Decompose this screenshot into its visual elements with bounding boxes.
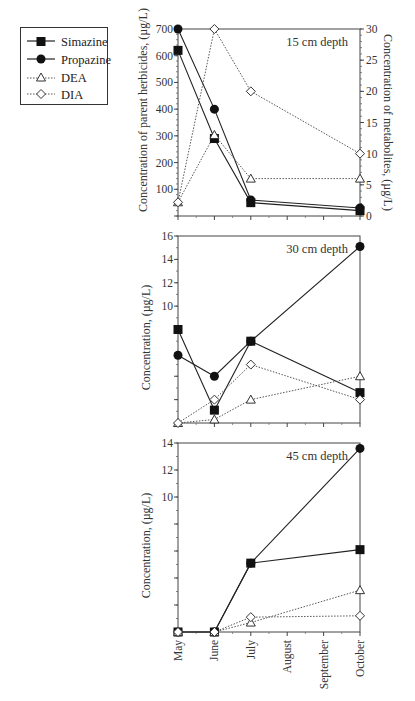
y-tick-label: 10	[162, 491, 174, 503]
y-tick-label: 400	[156, 103, 174, 115]
filled-circle-marker-icon	[210, 372, 219, 381]
panel-title: 15 cm depth	[286, 35, 349, 49]
open-triangle-marker-icon	[246, 174, 255, 182]
x-tick-label: September	[318, 640, 331, 689]
y-right-tick-label: 0	[366, 210, 372, 222]
y-right-tick-label: 15	[366, 117, 378, 129]
y-tick-label: 14	[162, 437, 174, 449]
filled-circle-marker-icon	[210, 105, 219, 114]
y-right-tick-label: 30	[366, 23, 378, 35]
y-tick-label: 200	[156, 157, 174, 169]
series-line-simazine	[178, 550, 360, 632]
y-tick-label: 12	[162, 277, 174, 289]
x-tick-label: August	[281, 639, 294, 673]
y-axis-label: Concentration, (µg/L)	[139, 285, 153, 391]
y-tick-label: 300	[156, 130, 174, 142]
chart-panel-1: 100200300400500600700051015202530Concent…	[136, 8, 395, 222]
y-right-axis-label: Concentration of metabolites, (µg/L)	[381, 34, 395, 211]
filled-circle-marker-icon	[356, 444, 365, 453]
x-tick-label: June	[208, 640, 220, 661]
series-line-propazine	[178, 247, 360, 377]
y-axis-label: Concentration of parent herbicides, (µg/…	[136, 8, 150, 212]
open-triangle-marker-icon	[210, 415, 219, 423]
y-tick-label: 700	[156, 23, 174, 35]
x-tick-label: October	[354, 640, 366, 677]
plot-frame	[178, 29, 360, 216]
y-tick-label: 600	[156, 50, 174, 62]
series-line-dea	[178, 376, 360, 423]
y-right-tick-label: 10	[366, 148, 378, 160]
x-tick-label: May	[172, 640, 185, 661]
panel-title: 45 cm depth	[286, 449, 349, 463]
filled-square-marker-icon	[356, 545, 365, 554]
series-line-propazine	[178, 448, 360, 632]
x-tick-label: July	[245, 640, 258, 659]
open-triangle-marker-icon	[356, 372, 365, 380]
open-diamond-marker-icon	[246, 613, 255, 622]
plot-frame	[178, 236, 360, 423]
filled-circle-marker-icon	[174, 25, 183, 34]
open-diamond-marker-icon	[356, 611, 365, 620]
y-right-tick-label: 5	[366, 179, 372, 191]
panel-title: 30 cm depth	[286, 242, 349, 256]
y-axis-label: Concentration, (µg/L)	[139, 493, 153, 599]
plot-frame	[178, 443, 360, 632]
y-tick-label: 100	[156, 183, 174, 195]
open-triangle-marker-icon	[356, 174, 365, 182]
open-diamond-marker-icon	[210, 25, 219, 34]
open-diamond-marker-icon	[356, 149, 365, 158]
series-line-propazine	[178, 29, 360, 208]
y-right-tick-label: 25	[366, 54, 378, 66]
filled-circle-marker-icon	[246, 195, 255, 204]
filled-circle-marker-icon	[356, 203, 365, 212]
y-tick-label: 500	[156, 76, 174, 88]
filled-circle-marker-icon	[246, 559, 255, 568]
filled-circle-marker-icon	[174, 351, 183, 360]
filled-square-marker-icon	[174, 325, 183, 334]
filled-square-marker-icon	[174, 46, 183, 55]
series-line-dea	[178, 135, 360, 202]
series-line-dea	[178, 590, 360, 632]
chart-panel-2: 10121416Concentration, (µg/L)30 cm depth	[139, 230, 365, 428]
open-triangle-marker-icon	[356, 586, 365, 594]
series-line-simazine	[178, 50, 360, 210]
open-diamond-marker-icon	[246, 87, 255, 96]
chart-canvas: 100200300400500600700051015202530Concent…	[0, 0, 415, 701]
filled-square-marker-icon	[210, 406, 219, 415]
filled-circle-marker-icon	[246, 337, 255, 346]
open-diamond-marker-icon	[246, 360, 255, 369]
y-tick-label: 16	[162, 230, 174, 242]
series-line-simazine	[178, 330, 360, 411]
chart-panel-3: 101214Concentration, (µg/L)45 cm depthMa…	[139, 437, 366, 689]
filled-circle-marker-icon	[356, 242, 365, 251]
series-line-dia	[178, 616, 360, 632]
y-tick-label: 12	[162, 464, 174, 476]
y-right-tick-label: 20	[366, 85, 378, 97]
y-tick-label: 14	[162, 253, 174, 265]
y-tick-label: 10	[162, 300, 174, 312]
series-line-dia	[178, 365, 360, 423]
